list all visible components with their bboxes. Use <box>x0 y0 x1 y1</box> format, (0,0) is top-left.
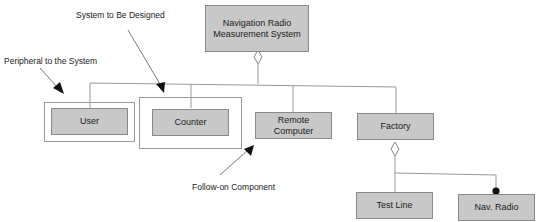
aggregation-diamond-factory <box>391 142 399 156</box>
node-navigation-radio-measurement-system[interactable]: Navigation Radio Measurement System <box>205 5 309 52</box>
node-user[interactable]: User <box>51 108 128 135</box>
node-label: User <box>80 116 99 127</box>
annotation-follow-on: Follow-on Component <box>192 182 275 192</box>
annotation-system: System to Be Designed <box>76 10 165 20</box>
node-remote-computer[interactable]: Remote Computer <box>255 112 332 139</box>
annotation-peripheral: Peripheral to the System <box>4 56 97 66</box>
node-label: Counter <box>174 117 206 128</box>
node-counter[interactable]: Counter <box>152 109 229 136</box>
node-test-line[interactable]: Test Line <box>356 192 433 219</box>
node-label: Remote Computer <box>269 115 319 137</box>
node-nav-radio[interactable]: Nav. Radio <box>458 194 535 221</box>
node-label: Factory <box>380 121 410 132</box>
node-label: Nav. Radio <box>475 202 519 213</box>
aggregation-diamond-root <box>254 50 262 64</box>
node-factory[interactable]: Factory <box>357 113 434 140</box>
node-label: Test Line <box>376 200 412 211</box>
node-label: Navigation Radio Measurement System <box>206 18 308 40</box>
arrow-follow-on <box>244 145 254 156</box>
